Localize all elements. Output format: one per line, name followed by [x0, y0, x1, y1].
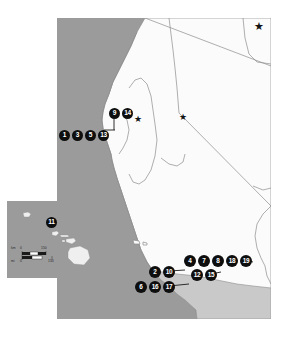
island-hawaii: [68, 246, 90, 265]
land-polygons: [102, 18, 271, 319]
site-marker-8[interactable]: 8: [212, 255, 224, 267]
site-marker-6[interactable]: 6: [135, 281, 147, 293]
site-marker-4[interactable]: 4: [184, 255, 196, 267]
scalebar-km-max: 150: [41, 247, 47, 250]
scalebar-km-zero: 0: [20, 247, 22, 250]
site-marker-12[interactable]: 12: [191, 269, 203, 281]
island-lanai: [62, 240, 65, 242]
site-marker-9[interactable]: 9: [109, 108, 120, 119]
site-marker-2[interactable]: 2: [149, 266, 161, 278]
site-marker-13[interactable]: 13: [98, 130, 109, 141]
hawaii-inset-graphic: [8, 202, 109, 278]
island-maui: [66, 238, 76, 244]
site-marker-5[interactable]: 5: [85, 130, 96, 141]
scalebar-mi-zero: 0: [20, 260, 22, 263]
island-oahu: [52, 231, 59, 236]
scalebar-seg-3: [38, 252, 46, 255]
capital-star-carson-city: ★: [179, 113, 187, 122]
site-marker-14[interactable]: 14: [122, 108, 133, 119]
site-marker-16[interactable]: 16: [149, 281, 161, 293]
site-marker-11[interactable]: 11: [46, 217, 57, 228]
site-marker-10[interactable]: 10: [163, 266, 175, 278]
site-marker-15[interactable]: 15: [205, 269, 217, 281]
scalebar-mi-max: 150: [48, 260, 54, 263]
site-marker-7[interactable]: 7: [198, 255, 210, 267]
site-marker-1[interactable]: 1: [59, 130, 70, 141]
scalebar-seg-2: [30, 252, 38, 255]
site-marker-18[interactable]: 18: [226, 255, 238, 267]
capital-star-sacramento: ★: [134, 115, 142, 124]
island-kauai: [23, 212, 31, 217]
map-figure: ★ ★ ★ 1 3 5 13 9 14 4 7 8 18 19 2 10 12 …: [0, 0, 284, 337]
scalebar-mi-unit: mi: [11, 260, 15, 263]
scalebar-km-unit: km: [11, 247, 16, 250]
scalebar-seg-4: [22, 256, 32, 259]
scalebar-seg-5: [32, 256, 42, 259]
capital-star-northeast: ★: [254, 21, 264, 32]
site-marker-3[interactable]: 3: [72, 130, 83, 141]
site-marker-19[interactable]: 19: [240, 255, 252, 267]
site-marker-17[interactable]: 17: [163, 281, 175, 293]
hawaii-inset-panel[interactable]: km 0 150 mi 0 150 11: [7, 201, 109, 278]
scalebar-seg-1: [22, 252, 30, 255]
land-mass-west: [102, 18, 271, 319]
island-molokai: [60, 235, 69, 237]
